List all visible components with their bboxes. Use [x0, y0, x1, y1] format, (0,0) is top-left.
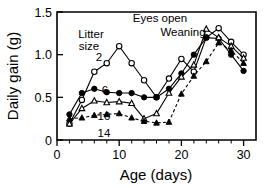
x-tick-label-3: 30 — [237, 148, 251, 162]
eyes-open-arrow-icon — [127, 1, 132, 26]
data-point-14-10 — [116, 110, 122, 115]
data-point-6-12 — [129, 90, 134, 95]
data-point-10-22 — [191, 62, 197, 67]
data-point-10-12 — [129, 100, 135, 105]
data-point-2-8 — [104, 61, 109, 66]
data-point-10-8 — [104, 99, 110, 104]
x-tick-label-1: 10 — [112, 148, 126, 162]
x-axis-tick-labels: 0 10 20 30 — [54, 148, 251, 162]
data-point-6-6 — [92, 86, 97, 91]
data-point-14-12 — [129, 115, 135, 120]
x-tick-label-2: 20 — [174, 148, 188, 162]
data-point-10-4 — [79, 105, 85, 110]
y-tick-label-1: 0.5 — [35, 91, 52, 105]
data-point-6-16 — [154, 95, 159, 100]
data-point-10-6 — [91, 98, 97, 103]
data-point-10-10 — [116, 99, 122, 104]
y-tick-label-2: 1.0 — [35, 48, 52, 62]
chart-figure: 0 0.5 1.0 1.5 Daily gain (g) — [0, 0, 269, 188]
weaning-label: Weaning — [160, 26, 205, 38]
annotation-eyes-open: Eyes open — [127, 1, 187, 26]
data-point-2-20 — [179, 56, 184, 61]
x-axis-title: Age (days) — [120, 166, 193, 183]
data-point-6-30 — [241, 68, 246, 73]
y-axis-title: Daily gain (g) — [4, 32, 21, 120]
legend-title-line1: Litter — [78, 28, 104, 40]
x-tick-label-0: 0 — [54, 148, 61, 162]
series-label-2: 2 — [96, 51, 102, 63]
x-axis-ticks — [57, 140, 244, 146]
eyes-open-label: Eyes open — [133, 12, 187, 24]
data-point-6-14 — [141, 95, 146, 100]
y-axis-title-text: Daily gain (g) — [4, 32, 21, 120]
data-point-14-4 — [79, 115, 85, 120]
y-axis-ticks — [57, 12, 63, 140]
data-point-6-22 — [191, 52, 196, 57]
series-label-10: 10 — [98, 110, 111, 122]
x-axis-title-text: Age (days) — [120, 166, 193, 183]
data-point-2-14 — [141, 78, 146, 83]
data-point-2-4 — [79, 97, 84, 102]
data-point-2-18 — [166, 76, 171, 81]
data-point-6-4 — [79, 90, 84, 95]
data-point-14-6 — [91, 112, 97, 117]
data-point-2-10 — [116, 43, 121, 48]
series-label-14: 14 — [98, 127, 111, 139]
data-point-2-6 — [92, 69, 97, 74]
daily-gain-line-chart: 0 0.5 1.0 1.5 Daily gain (g) — [0, 0, 269, 188]
data-point-2-26 — [216, 26, 221, 31]
y-tick-label-0: 0 — [45, 134, 52, 148]
data-point-2-12 — [129, 61, 134, 66]
y-tick-label-3: 1.5 — [35, 6, 52, 20]
data-point-6-10 — [116, 90, 121, 95]
data-point-14-18 — [166, 119, 172, 124]
series-label-6: 6 — [102, 84, 108, 96]
legend-inline: Litter size 2 6 10 14 — [78, 28, 111, 139]
y-axis-tick-labels: 0 0.5 1.0 1.5 — [35, 6, 52, 148]
